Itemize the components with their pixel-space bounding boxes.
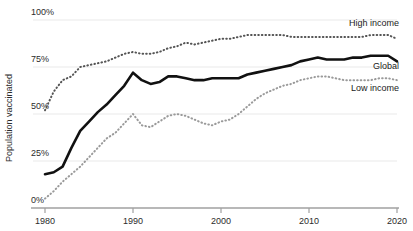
y-axis-label: Population vaccinated	[4, 74, 14, 162]
y-axis-tick-labels: 0%25%50%75%100%	[31, 7, 54, 205]
x-axis-tick-label: 2000	[211, 216, 231, 226]
gridlines	[33, 20, 397, 161]
series-line-low-income	[45, 76, 397, 198]
x-axis-tick-label: 1980	[35, 216, 55, 226]
x-axis-tick-label: 1990	[123, 216, 143, 226]
series-label-high-income: High income	[349, 18, 399, 28]
series-line-global	[45, 56, 397, 174]
x-axis-tick-label: 2010	[299, 216, 319, 226]
series-lines	[45, 35, 397, 199]
series-label-low-income: Low income	[351, 83, 399, 93]
vaccination-line-chart: 0%25%50%75%100% 19801990200020102020 Hig…	[0, 0, 413, 231]
y-axis-tick-label: 25%	[31, 148, 49, 158]
x-axis-tick-labels: 19801990200020102020	[35, 216, 407, 226]
chart-canvas: 0%25%50%75%100% 19801990200020102020 Hig…	[0, 0, 413, 231]
y-axis-tick-label: 75%	[31, 54, 49, 64]
y-axis-tick-label: 100%	[31, 7, 54, 17]
y-axis-tick-label: 0%	[31, 195, 44, 205]
x-axis-tick-label: 2020	[387, 216, 407, 226]
series-label-global: Global	[373, 61, 399, 71]
x-axis-ticks	[45, 208, 397, 213]
series-line-high-income	[45, 35, 397, 110]
